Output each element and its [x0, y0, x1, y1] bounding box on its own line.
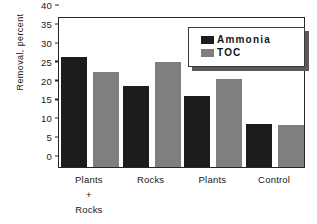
y-tick-label: 25	[41, 56, 55, 67]
bar-ammonia-0	[61, 57, 87, 167]
y-tick-label: 40	[41, 0, 55, 11]
y-tick-label: 15	[41, 94, 55, 105]
y-tick-0: 0	[47, 151, 59, 162]
toc-swatch-icon	[201, 49, 214, 57]
bar-chart: Removal, percent 0510152025303540 Ammoni…	[0, 0, 317, 224]
y-tick-35: 35	[41, 18, 59, 29]
y-tick-15: 15	[41, 94, 59, 105]
bar-ammonia-2	[184, 96, 210, 167]
x-axis-category-line: Rocks	[120, 172, 182, 187]
legend-label-toc: TOC	[217, 47, 242, 58]
y-tick-mark	[55, 4, 59, 5]
legend-entry-toc: TOC	[201, 46, 304, 59]
y-tick-label: 0	[47, 151, 55, 162]
chart-legend: Ammonia TOC	[188, 27, 305, 67]
y-tick-label: 35	[41, 18, 55, 29]
bar-toc-2	[216, 79, 242, 167]
legend-entry-ammonia: Ammonia	[201, 33, 304, 46]
y-tick-25: 25	[41, 56, 59, 67]
bar-toc-3	[278, 125, 304, 167]
bar-toc-0	[93, 72, 119, 167]
x-axis-category-line: Control	[243, 172, 305, 187]
x-axis-category-0: Plants+Rocks	[58, 172, 120, 217]
x-axis-category-3: Control	[243, 172, 305, 187]
legend-label-ammonia: Ammonia	[217, 34, 271, 45]
x-axis-category-line: Plants	[182, 172, 244, 187]
ammonia-swatch-icon	[201, 36, 214, 44]
y-tick-label: 10	[41, 113, 55, 124]
plot-area: 0510152025303540 Ammonia TOC	[58, 17, 305, 168]
bar-ammonia-3	[246, 124, 272, 167]
x-axis-category-line: Plants	[58, 172, 120, 187]
y-axis-title: Removal, percent	[15, 0, 25, 122]
y-tick-40: 40	[41, 0, 59, 11]
y-tick-30: 30	[41, 37, 59, 48]
bar-toc-1	[155, 62, 181, 167]
x-axis-category-1: Rocks	[120, 172, 182, 187]
y-tick-5: 5	[47, 132, 59, 143]
y-tick-label: 20	[41, 75, 55, 86]
y-tick-label: 5	[47, 132, 55, 143]
y-tick-20: 20	[41, 75, 59, 86]
x-axis-labels: Plants+RocksRocksPlantsControl	[58, 172, 305, 224]
x-axis-category-2: Plants	[182, 172, 244, 187]
bar-ammonia-1	[123, 86, 149, 167]
y-tick-10: 10	[41, 113, 59, 124]
y-tick-label: 30	[41, 37, 55, 48]
x-axis-category-line: +	[58, 187, 120, 202]
x-axis-category-line: Rocks	[58, 202, 120, 217]
